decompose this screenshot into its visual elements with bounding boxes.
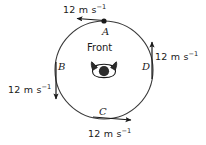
figure-graphics: [0, 0, 206, 145]
velocity-exponent-c: −1: [122, 127, 132, 135]
velocity-value-c: 12 m s: [88, 128, 122, 139]
point-label-d: D: [142, 61, 150, 72]
point-label-c: C: [99, 106, 107, 117]
circular-motion-figure: Front A B C D 12 m s−1 12 m s−1 12 m s−1…: [0, 0, 206, 145]
point-label-a: A: [102, 26, 109, 37]
point-label-b: B: [58, 61, 65, 72]
velocity-value-b: 12 m s: [8, 84, 42, 95]
person-front-view-icon: [91, 62, 116, 78]
velocity-exponent-d: −1: [189, 50, 199, 58]
velocity-label-b: 12 m s−1: [8, 83, 51, 95]
front-label: Front: [87, 42, 112, 53]
velocity-label-d: 12 m s−1: [155, 50, 198, 62]
velocity-exponent-b: −1: [42, 83, 52, 91]
velocity-arrow-a: [77, 19, 104, 21]
velocity-exponent-a: −1: [97, 3, 107, 11]
velocity-label-a: 12 m s−1: [63, 3, 106, 15]
velocity-value-a: 12 m s: [63, 4, 97, 15]
velocity-label-c: 12 m s−1: [88, 127, 131, 139]
velocity-value-d: 12 m s: [155, 51, 189, 62]
point-a-marker: [101, 18, 106, 23]
